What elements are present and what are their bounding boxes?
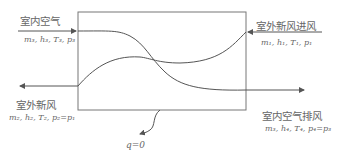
indoor-stream-curve [78,31,246,90]
supply-air-label: 室外新风 [16,97,56,112]
heat-loss-label: q=0 [126,140,145,150]
supply-air-props: m₂, h₂, T₂, p₂=p₁ [9,113,75,122]
exchanger-box [78,12,246,110]
exhaust-air-props: m₃, h₄, T₄, p₄=p₃ [265,124,331,133]
exhaust-air-label: 室内空气排风 [262,108,322,123]
indoor-air-label: 室内空气 [20,13,60,28]
outdoor-inlet-props: m₁, h₁, T₁, p₁ [261,38,312,47]
heat-loss-arrow [140,110,160,134]
indoor-air-props: m₃, h₃, T₃, p₃ [24,35,75,44]
outdoor-inlet-label: 室外新风进风 [256,18,316,33]
outdoor-stream-curve [78,32,246,86]
